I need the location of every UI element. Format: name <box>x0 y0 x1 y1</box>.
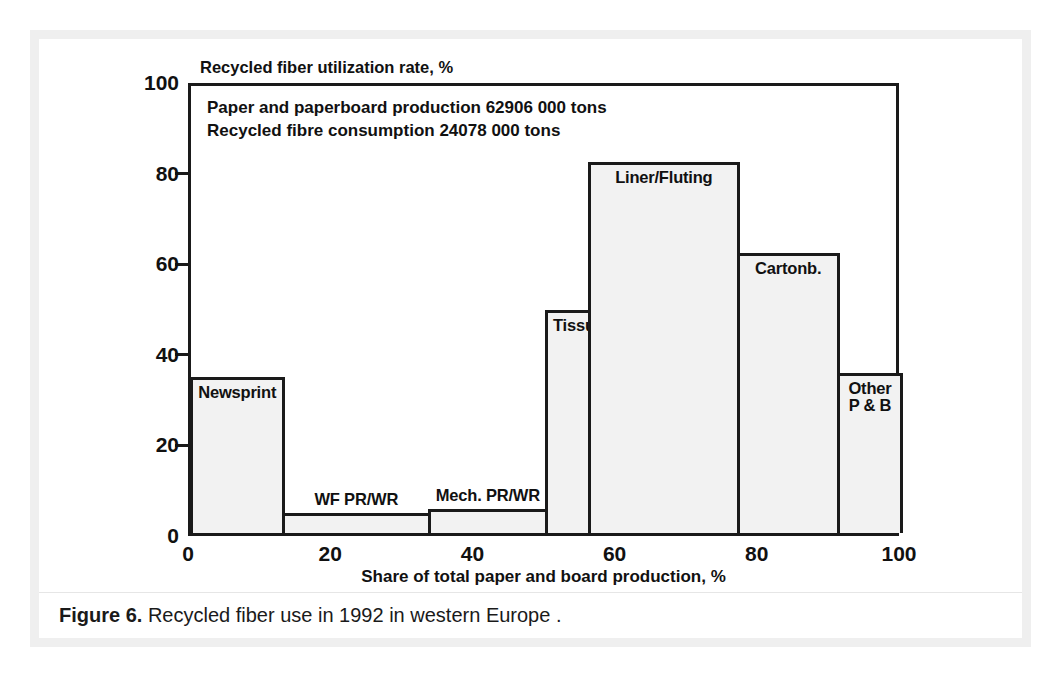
bars-layer: NewsprintWF PR/WRMech. PR/WRTissueLiner/… <box>191 86 896 533</box>
y-tick-label: 100 <box>144 71 179 95</box>
bar-label: Tissue <box>548 317 593 334</box>
caption-divider <box>39 592 1022 593</box>
caption-label: Figure 6. <box>59 604 142 626</box>
x-tick-label: 100 <box>881 542 916 566</box>
x-tick-label: 60 <box>603 542 626 566</box>
bar-label: Newsprint <box>193 384 282 401</box>
y-tick-mark <box>175 263 188 266</box>
bar-label: OtherP & B <box>840 380 901 415</box>
y-tick-mark <box>175 172 188 175</box>
bar-tissue: Tissue <box>545 310 591 533</box>
plot-area: NewsprintWF PR/WRMech. PR/WRTissueLiner/… <box>188 83 899 536</box>
figure-inner: Recycled fiber utilization rate, % Newsp… <box>39 39 1022 638</box>
bar-label: Mech. PR/WR <box>431 487 545 504</box>
chart-title: Recycled fiber utilization rate, % <box>200 58 453 77</box>
bar-label: Liner/Fluting <box>591 169 737 186</box>
x-axis-title: Share of total paper and board productio… <box>188 567 899 587</box>
y-tick-label: 80 <box>156 162 179 186</box>
y-tick-label: 60 <box>156 252 179 276</box>
y-tick-label: 0 <box>167 524 179 548</box>
bar-mech-pr-wr: Mech. PR/WR <box>428 509 548 533</box>
y-tick-label: 40 <box>156 343 179 367</box>
figure-frame: Recycled fiber utilization rate, % Newsp… <box>30 30 1031 647</box>
annotation-block: Paper and paperboard production 62906 00… <box>207 96 607 143</box>
y-tick-label: 20 <box>156 433 179 457</box>
y-tick-mark <box>175 444 188 447</box>
bar-liner-fluting: Liner/Fluting <box>588 162 740 533</box>
annotation-line: Recycled fibre consumption 24078 000 ton… <box>207 119 607 142</box>
bar-newsprint: Newsprint <box>190 377 285 533</box>
annotation-line: Paper and paperboard production 62906 00… <box>207 96 607 119</box>
caption-text: Recycled fiber use in 1992 in western Eu… <box>142 604 561 626</box>
x-tick-label: 80 <box>745 542 768 566</box>
bar-label: Cartonb. <box>740 260 837 277</box>
figure-caption: Figure 6. Recycled fiber use in 1992 in … <box>59 604 561 627</box>
x-tick-label: 40 <box>461 542 484 566</box>
bar-cartonb: Cartonb. <box>737 253 840 533</box>
x-tick-label: 0 <box>182 542 194 566</box>
bar-label: WF PR/WR <box>285 491 428 508</box>
bar-other-p-b: OtherP & B <box>837 373 904 533</box>
x-tick-label: 20 <box>319 542 342 566</box>
bar-wf-pr-wr: WF PR/WR <box>282 513 431 533</box>
y-tick-mark <box>175 353 188 356</box>
